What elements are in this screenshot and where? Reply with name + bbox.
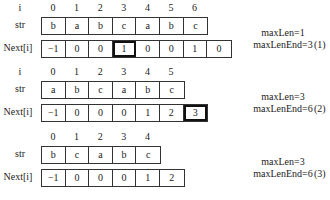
str-cell: b <box>136 82 160 98</box>
max-len-note: maxLen=1maxLenEnd=3 <box>248 27 318 51</box>
index-label: 5 <box>159 66 183 77</box>
next-cell: −1 <box>42 170 66 186</box>
index-label: 5 <box>159 2 183 13</box>
str-cell: c <box>89 82 113 98</box>
max-len-text: maxLen=3 <box>248 156 318 168</box>
index-label: 0 <box>41 66 65 77</box>
str-cell: a <box>113 82 137 98</box>
next-array: −100012 <box>41 169 185 187</box>
index-label: 1 <box>65 2 89 13</box>
index-label: 1 <box>65 66 89 77</box>
i-label: i <box>2 66 38 77</box>
next-cell: 1 <box>136 170 160 186</box>
str-cell: a <box>136 18 160 34</box>
next-cell: 0 <box>66 105 90 121</box>
index-label: 2 <box>88 2 112 13</box>
next-cell: −1 <box>42 41 66 57</box>
index-label: 2 <box>88 131 112 142</box>
index-label: 2 <box>88 66 112 77</box>
next-cell: 0 <box>160 41 184 57</box>
index-label: 4 <box>135 131 159 142</box>
index-label: 3 <box>112 2 136 13</box>
next-cell: 1 <box>136 105 160 121</box>
str-array: bcabc <box>41 146 161 164</box>
next-cell: 0 <box>89 105 113 121</box>
max-len-end-text: maxLenEnd=6 <box>248 168 318 180</box>
index-label: 0 <box>41 131 65 142</box>
i-label: i <box>2 2 38 13</box>
max-len-note: maxLen=3maxLenEnd=6 <box>248 91 318 115</box>
next-cell: 1 <box>184 41 208 57</box>
next-cell: 0 <box>89 41 113 57</box>
max-len-end-text: maxLenEnd=3 <box>248 39 318 51</box>
index-label: 4 <box>135 66 159 77</box>
index-label: 6 <box>183 2 207 13</box>
str-label: str <box>2 83 38 94</box>
index-label: 1 <box>65 131 89 142</box>
next-array: −10010010 <box>41 40 232 58</box>
index-label: 4 <box>135 2 159 13</box>
next-cell: 0 <box>66 170 90 186</box>
next-label: Next[i] <box>0 171 36 182</box>
str-cell: b <box>89 18 113 34</box>
next-label: Next[i] <box>0 106 36 117</box>
next-cell-highlighted: 1 <box>113 41 137 57</box>
str-cell: b <box>66 82 90 98</box>
max-len-text: maxLen=1 <box>248 27 318 39</box>
index-label: 3 <box>112 131 136 142</box>
next-cell: 0 <box>66 41 90 57</box>
next-label: Next[i] <box>0 42 36 53</box>
next-cell: 0 <box>136 41 160 57</box>
str-cell: c <box>160 82 184 98</box>
next-cell-highlighted: 3 <box>184 105 208 121</box>
str-cell: c <box>136 147 160 163</box>
str-cell: c <box>184 18 208 34</box>
str-cell: a <box>66 18 90 34</box>
index-label: 0 <box>41 2 65 13</box>
str-cell: c <box>66 147 90 163</box>
next-cell: 0 <box>113 105 137 121</box>
str-label: str <box>2 148 38 159</box>
index-label: 3 <box>112 66 136 77</box>
case-tag: (3) <box>314 168 326 179</box>
str-cell: a <box>89 147 113 163</box>
str-array: abcabc <box>41 81 185 99</box>
str-cell: b <box>42 147 66 163</box>
next-cell: 0 <box>113 170 137 186</box>
next-cell: 2 <box>160 105 184 121</box>
next-cell: 0 <box>89 170 113 186</box>
next-cell: 2 <box>160 170 184 186</box>
str-cell: b <box>160 18 184 34</box>
str-cell: a <box>42 82 66 98</box>
max-len-end-text: maxLenEnd=6 <box>248 103 318 115</box>
str-cell: b <box>42 18 66 34</box>
next-array: −1000123 <box>41 104 208 122</box>
str-array: babcabc <box>41 17 208 35</box>
case-tag: (2) <box>314 103 326 114</box>
str-cell: b <box>113 147 137 163</box>
max-len-note: maxLen=3maxLenEnd=6 <box>248 156 318 180</box>
str-label: str <box>2 19 38 30</box>
case-tag: (1) <box>314 39 326 50</box>
next-cell: −1 <box>42 105 66 121</box>
str-cell: c <box>113 18 137 34</box>
next-cell: 0 <box>207 41 231 57</box>
max-len-text: maxLen=3 <box>248 91 318 103</box>
